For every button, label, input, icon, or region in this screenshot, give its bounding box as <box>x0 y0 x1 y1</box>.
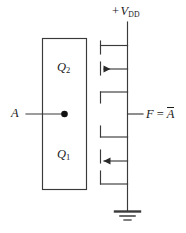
cmos-inverter-figure: +VDD Q2 Q1 A F=A <box>0 0 186 233</box>
transistor-top-subscript: 2 <box>66 65 70 75</box>
transistor-top-symbol: Q <box>57 60 66 74</box>
output-equals-sign: = <box>157 107 164 121</box>
output-symbol: F <box>146 107 154 121</box>
output-operand-negated: A <box>167 107 175 121</box>
transistor-bottom-label: Q1 <box>57 148 70 162</box>
supply-plus-sign: + <box>112 4 119 18</box>
output-label: F=A <box>146 107 174 121</box>
transistor-bottom-symbol: Q <box>57 147 66 161</box>
supply-subscript: DD <box>128 10 140 19</box>
nmos-drain-arrow <box>104 158 111 165</box>
pmos-source-arrow <box>104 66 111 73</box>
transistor-top-label: Q2 <box>57 61 70 75</box>
input-junction-dot <box>61 111 68 118</box>
transistor-bottom-subscript: 1 <box>66 152 70 162</box>
supply-voltage-label: +VDD <box>112 5 140 18</box>
input-label: A <box>11 107 19 120</box>
